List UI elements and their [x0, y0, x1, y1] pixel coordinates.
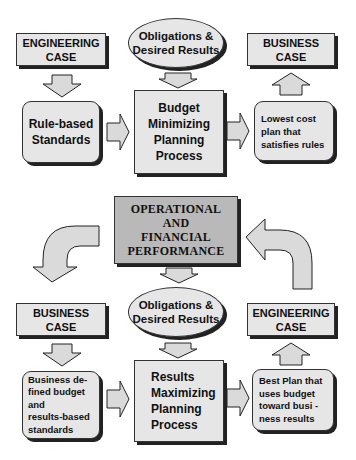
down-arrow-icon [157, 343, 199, 361]
bottom-standards-box: Business de- fined budget and results-ba… [22, 371, 100, 439]
performance-label: OPERATIONAL AND FINANCIAL PERFORMANCE [128, 202, 225, 258]
bottom-process-label: Results Maximizing Planning Process [151, 369, 216, 433]
up-arrow-icon [270, 343, 312, 367]
bottom-output-label: Best Plan that uses budget toward busi -… [259, 375, 322, 425]
curved-up-arrow-icon [242, 219, 314, 291]
curved-down-arrow-icon [30, 224, 105, 284]
bottom-engineering-case-box: ENGINEERING CASE [247, 303, 335, 336]
down-arrow-icon [157, 73, 199, 91]
top-process-box: Budget Minimizing Planning Process [134, 90, 224, 174]
top-business-case-label: BUSINESS CASE [263, 36, 319, 64]
right-arrow-icon [107, 114, 131, 154]
down-arrow-icon [158, 268, 200, 286]
right-arrow-icon [107, 381, 131, 421]
top-output-label: Lowest cost plan that satisfies rules [261, 112, 324, 151]
bottom-output-box: Best Plan that uses budget toward busi -… [252, 369, 334, 431]
bottom-engineering-case-label: ENGINEERING CASE [252, 306, 329, 334]
performance-box: OPERATIONAL AND FINANCIAL PERFORMANCE [114, 196, 238, 264]
top-process-label: Budget Minimizing Planning Process [148, 100, 210, 164]
top-standards-box: Rule-based Standards [22, 101, 100, 163]
bottom-obligations-ellipse: Obligations & Desired Results [128, 287, 224, 337]
right-arrow-icon [227, 380, 251, 420]
top-output-box: Lowest cost plan that satisfies rules [254, 101, 334, 161]
up-arrow-icon [270, 73, 312, 97]
top-business-case-box: BUSINESS CASE [247, 33, 335, 66]
top-obligations-ellipse: Obligations & Desired Results [128, 18, 224, 68]
top-engineering-case-box: ENGINEERING CASE [16, 33, 106, 66]
bottom-process-box: Results Maximizing Planning Process [134, 360, 224, 442]
bottom-obligations-label: Obligations & Desired Results [133, 298, 220, 326]
down-arrow-icon [41, 344, 83, 368]
down-arrow-icon [41, 75, 83, 99]
bottom-business-case-box: BUSINESS CASE [16, 303, 106, 336]
top-standards-label: Rule-based Standards [29, 116, 94, 148]
top-obligations-label: Obligations & Desired Results [133, 29, 220, 57]
right-arrow-icon [227, 113, 251, 153]
bottom-standards-label: Business de- fined budget and results-ba… [28, 374, 90, 437]
top-engineering-case-label: ENGINEERING CASE [22, 36, 99, 64]
bottom-business-case-label: BUSINESS CASE [33, 306, 89, 334]
